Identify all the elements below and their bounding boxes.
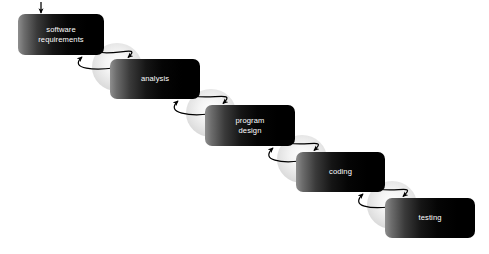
stage-box-testing[interactable]: testing <box>385 198 475 238</box>
stage-label-coding: coding <box>329 167 352 177</box>
waterfall-diagram: software requirementsanalysisprogram des… <box>0 0 489 254</box>
stage-box-program-design[interactable]: program design <box>205 105 295 146</box>
stage-box-coding[interactable]: coding <box>296 152 385 192</box>
stage-box-software-requirements[interactable]: software requirements <box>18 14 104 55</box>
stage-label-program-design: program design <box>236 116 265 136</box>
stage-label-testing: testing <box>418 213 441 223</box>
stage-box-analysis[interactable]: analysis <box>110 59 200 99</box>
stage-label-analysis: analysis <box>141 74 169 84</box>
stage-label-software-requirements: software requirements <box>38 25 84 45</box>
